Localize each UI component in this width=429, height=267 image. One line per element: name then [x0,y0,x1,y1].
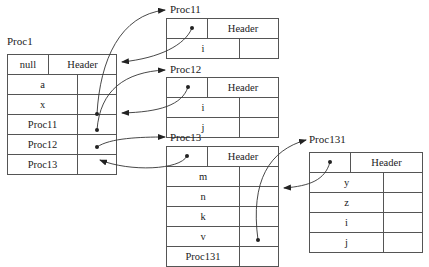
proc13-row-proc131: Proc131 [167,247,240,267]
proc1-pointer-cell [78,155,117,175]
proc11-cell [240,39,279,59]
proc13-pointer-cell [240,247,279,267]
proc12-link-cell [167,78,208,98]
proc1-pointer-cell [78,135,117,155]
proc1-header: Header [49,55,117,75]
proc1-row-a: a [8,75,78,95]
proc131-cell [384,233,423,253]
proc12-row-i: i [167,98,240,118]
proc12-header: Header [208,78,279,98]
proc131-row-i: i [310,213,384,233]
proc13-cell [240,207,279,227]
proc1-row-proc13: Proc13 [8,155,78,175]
proc131-header: Header [351,153,423,173]
proc131-cell [384,173,423,193]
proc11-link-cell [167,19,208,39]
proc131-row-z: z [310,193,384,213]
proc13-cell [240,187,279,207]
proc1-row-proc11: Proc11 [8,115,78,135]
proc131-title: Proc131 [309,133,346,145]
proc1-pointer-cell [78,115,117,135]
proc1-cell [78,75,117,95]
proc131-link-cell [310,153,351,173]
proc13-row-v: v [167,227,240,247]
proc131-cell [384,193,423,213]
proc1-row-proc12: Proc12 [8,135,78,155]
proc13-row-k: k [167,207,240,227]
proc12-title: Proc12 [170,63,201,75]
proc131-row-j: j [310,233,384,253]
proc1-row-x: x [8,95,78,115]
proc1-table: null Header a x Proc11 Proc12 Proc13 [7,54,117,175]
proc12-cell [240,98,279,118]
proc13-row-m: m [167,167,240,187]
proc12-cell [240,118,279,138]
proc11-table: Header i [166,18,279,59]
proc131-cell [384,213,423,233]
proc13-row-n: n [167,187,240,207]
proc13-cell [240,167,279,187]
proc1-cell [78,95,117,115]
proc13-header: Header [208,147,279,167]
proc11-header: Header [208,19,279,39]
proc131-row-y: y [310,173,384,193]
proc12-table: Header i j [166,77,279,138]
proc11-row-i: i [167,39,240,59]
proc13-table: Header m n k v Proc131 [166,146,279,267]
proc13-cell [240,227,279,247]
proc11-title: Proc11 [170,3,201,15]
proc1-header-left: null [8,55,49,75]
proc1-title: Proc1 [7,35,33,47]
proc13-link-cell [167,147,208,167]
proc131-table: Header y z i j [309,152,423,253]
proc13-title: Proc13 [170,131,201,143]
